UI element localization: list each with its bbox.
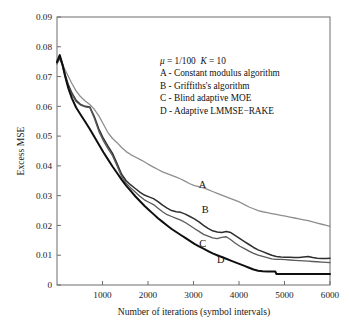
x-tick-label: 2000 xyxy=(139,290,158,300)
chart-figure: 00.010.020.030.040.050.060.070.080.09 10… xyxy=(0,0,349,331)
parameters-and-legend-annotation: μ = 1/100 K = 10A - Constant modulus alg… xyxy=(159,56,281,116)
y-tick-label: 0 xyxy=(47,280,52,290)
y-tick-label: 0.07 xyxy=(36,72,52,82)
x-tick-label: 5000 xyxy=(275,290,294,300)
x-tick-label: 4000 xyxy=(230,290,249,300)
x-axis-title-text: Number of iterations (symbol intervals) xyxy=(118,306,270,318)
y-tick-label: 0.05 xyxy=(36,131,52,141)
curve-label-c: C xyxy=(199,238,206,249)
x-tick-label: 1000 xyxy=(93,290,112,300)
x-tick-label: 6000 xyxy=(321,290,340,300)
x-axis-ticks: 100020003000400050006000 xyxy=(93,281,339,300)
legend-entry-c: C - Blind adaptive MOE xyxy=(160,93,252,103)
y-tick-label: 0.01 xyxy=(36,250,52,260)
x-tick-label: 3000 xyxy=(184,290,203,300)
legend-entry-a: A - Constant modulus algorithm xyxy=(160,68,281,78)
curve-label-b: B xyxy=(202,204,209,215)
annotation-parameters: μ = 1/100 K = 10 xyxy=(159,56,226,66)
legend-entry-b: B - Griffiths's algorithm xyxy=(160,81,250,91)
legend-entry-d: D - Adaptive LMMSE−RAKE xyxy=(160,106,274,116)
excess-mse-line-chart: 00.010.020.030.040.050.060.070.080.09 10… xyxy=(0,0,349,331)
curve-label-a: A xyxy=(199,179,207,190)
curve-label-d: D xyxy=(217,254,225,265)
y-axis-title: Excess MSE xyxy=(15,126,26,175)
y-tick-label: 0.04 xyxy=(36,161,52,171)
y-axis-title-text: Excess MSE xyxy=(15,126,26,175)
x-axis-title: Number of iterations (symbol intervals) xyxy=(118,306,270,318)
y-tick-label: 0.02 xyxy=(36,221,52,231)
y-tick-label: 0.09 xyxy=(36,12,52,22)
y-tick-label: 0.06 xyxy=(36,102,52,112)
y-tick-label: 0.03 xyxy=(36,191,52,201)
y-tick-label: 0.08 xyxy=(36,42,52,52)
